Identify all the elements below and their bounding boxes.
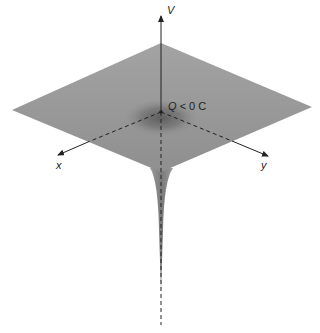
y-axis-label: y [261,160,267,171]
x-axis-label: x [56,160,62,171]
y-axis [232,141,268,156]
x-axis [58,142,88,155]
v-axis-label: V [167,5,174,16]
charge-relation: < 0 C [180,100,207,112]
point-charge [159,110,163,114]
charge-annotation: Q < 0 C [168,101,206,112]
charge-symbol: Q [168,100,177,112]
